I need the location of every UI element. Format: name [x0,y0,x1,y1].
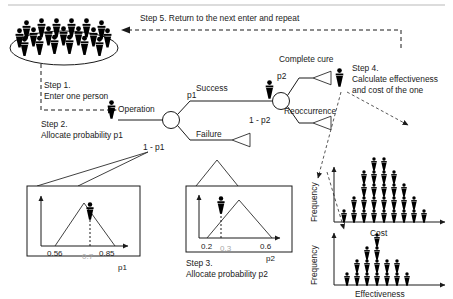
failure-label: Failure [196,129,222,139]
p1-axis-label: p1 [118,263,127,272]
success-label: Success [196,83,228,93]
p2-label: p2 [277,71,287,81]
step4-line3: and cost of the one [352,85,424,95]
one-minus-p1-label: 1 - p1 [143,142,165,152]
operation-label: Operation [118,104,155,114]
p2-max-tick: 0.6 [260,242,272,251]
p1-mode-tick: 0.7 [82,252,94,261]
step1-line2: Enter one person [44,91,109,101]
step4-line1: Step 4. [352,63,379,73]
p2-axis-label: p2 [266,254,275,263]
chance-node-p1 [163,112,180,129]
p1-max-tick: 0.85 [99,249,115,258]
population-pool [10,18,118,65]
operation-person-icon [108,100,116,118]
reoccurrence-label: Reoccurrence [284,106,336,116]
callout-leader-p2 [196,160,238,186]
callout-leader-p1 [37,152,148,186]
effectiveness-y-axis-label: Frequency [309,245,319,285]
inset-p2-distribution: 0.2 0.3 0.6 p2 [186,186,292,263]
complete-cure-label: Complete cure [279,54,334,64]
diagram-canvas: Operation p1 1 - p1 Success Failure p2 1… [0,0,453,299]
histogram-cost: Frequency Cost [309,157,445,238]
step5-label: Step 5. Return to the next enter and rep… [140,13,300,23]
p2-mode-tick: 0.3 [220,244,232,253]
reoccurrence-terminal-node [313,116,331,130]
p2-person-icon [266,80,274,98]
step2-line1: Step 2. [41,119,68,129]
outcome-person-icon [336,68,344,86]
cost-x-axis-label: Cost [370,228,388,238]
cost-pictogram-bars [341,157,427,223]
one-minus-p2-label: 1 - p2 [249,115,271,125]
effectiveness-pictogram-bars [344,233,410,286]
effectiveness-x-axis-label: Effectiveness [355,289,405,299]
step2-line2: Allocate probability p1 [41,130,123,140]
cost-y-axis-label: Frequency [309,182,319,222]
step1-line1: Step 1. [44,80,71,90]
inset-p1-distribution: 0.56 0.7 0.85 p1 [27,186,140,272]
step4-line2: Calculate effectiveness [352,74,438,84]
p1-min-tick: 0.56 [47,249,63,258]
step5-return-arrow [121,27,401,48]
failure-terminal-node [232,133,250,147]
step3-line2: Allocate probability p2 [186,269,268,279]
histogram-effectiveness: Frequency Effectiveness [309,233,445,299]
p2-min-tick: 0.2 [201,242,213,251]
crowd-pictograms [16,18,112,56]
complete-cure-terminal-node [313,71,331,85]
step3-line1: Step 3. [186,258,213,268]
